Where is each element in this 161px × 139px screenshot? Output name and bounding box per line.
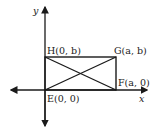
point-g-label: G(a, b)	[114, 45, 147, 56]
y-axis-label: y	[32, 5, 39, 16]
diagram-svg: y x H(0, b) G(a, b) F(a, 0) E(0, 0)	[0, 0, 161, 139]
point-f-label: F(a, 0)	[118, 77, 150, 88]
coordinate-diagram: y x H(0, b) G(a, b) F(a, 0) E(0, 0)	[0, 0, 161, 139]
x-axis-label: x	[139, 93, 145, 104]
point-e-label: E(0, 0)	[47, 93, 79, 104]
point-h-label: H(0, b)	[47, 45, 81, 56]
